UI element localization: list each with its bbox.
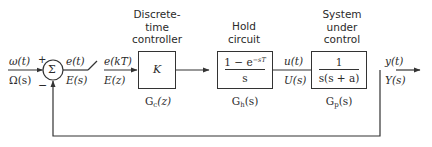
- plant-block: 1 s(s + a): [311, 51, 367, 89]
- controller-caption-line: time: [126, 21, 188, 34]
- minus-sign: −: [38, 80, 47, 92]
- control-time-label: u(t): [284, 55, 303, 67]
- plant-caption-line: under: [314, 21, 370, 34]
- controller-block: K: [138, 51, 176, 89]
- error-time-label: e(t): [66, 55, 85, 67]
- plant-caption-line: control: [314, 33, 370, 46]
- hold-caption-line: Hold: [212, 20, 276, 33]
- hold-transfer-label: Gh(s): [222, 95, 268, 111]
- transfer-symbol: G: [326, 95, 334, 107]
- plus-sign: +: [38, 54, 46, 66]
- plant-numerator: 1: [312, 56, 366, 69]
- output-time-label: y(t): [385, 55, 403, 67]
- plant-caption: System under control: [314, 8, 370, 46]
- error-laplace-label: E(s): [66, 74, 87, 86]
- plant-denominator: s(s + a): [312, 70, 366, 84]
- plant-transfer-label: Gp(s): [316, 95, 362, 111]
- controller-caption-line: controller: [126, 33, 188, 46]
- input-time-label: ω(t): [9, 55, 30, 67]
- controller-caption: Discrete- time controller: [126, 8, 188, 46]
- plant-caption-line: System: [314, 8, 370, 21]
- sampled-z-label: E(z): [104, 74, 125, 86]
- sampled-signal-label: e(kT): [104, 55, 132, 67]
- sampler-switch-icon: [88, 61, 97, 70]
- controller-transfer-label: Gc(z): [136, 95, 180, 111]
- hold-denominator: s: [218, 70, 272, 84]
- input-laplace-label: Ω(s): [9, 74, 31, 86]
- transfer-symbol: G: [232, 95, 240, 107]
- hold-block: 1 − e−sT s: [217, 51, 273, 89]
- hold-exponent: −sT: [253, 56, 266, 64]
- control-laplace-label: U(s): [284, 74, 306, 86]
- transfer-arg: (s): [339, 95, 353, 107]
- controller-gain: K: [139, 63, 175, 76]
- controller-caption-line: Discrete-: [126, 8, 188, 21]
- transfer-arg: (s): [245, 95, 259, 107]
- output-laplace-label: Y(s): [385, 74, 406, 86]
- hold-transfer-fraction: 1 − e−sT s: [218, 56, 272, 84]
- plant-transfer-fraction: 1 s(s + a): [312, 56, 366, 84]
- hold-numerator: 1 − e: [224, 56, 252, 68]
- hold-caption-line: circuit: [212, 33, 276, 46]
- hold-caption: Hold circuit: [212, 20, 276, 45]
- transfer-arg: (z): [157, 95, 171, 107]
- sigma-symbol: Σ: [48, 64, 56, 76]
